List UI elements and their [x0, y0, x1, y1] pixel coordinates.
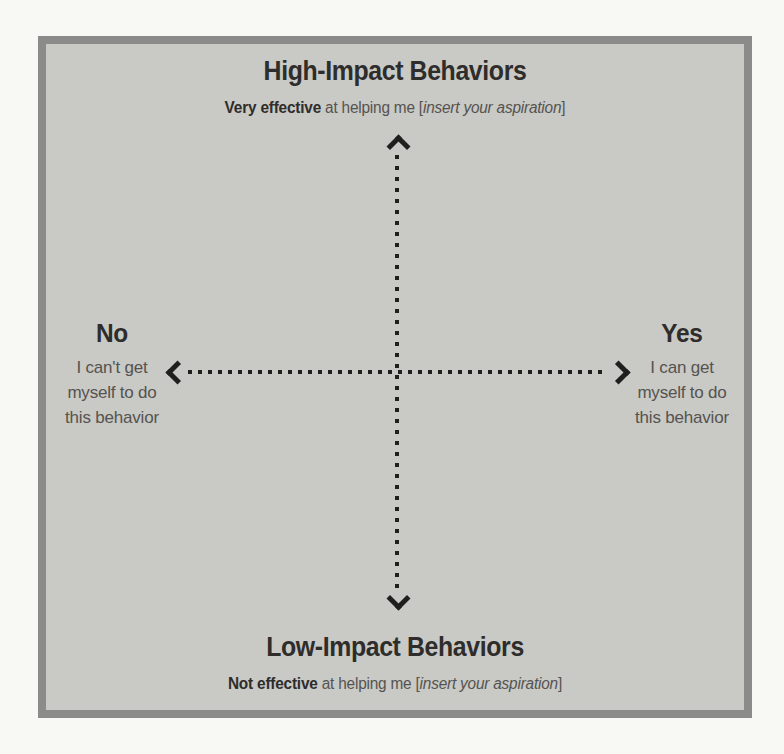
yes-label: Yes I can get myself to do this behavior — [616, 318, 748, 430]
high-impact-title: High-Impact Behaviors — [74, 56, 716, 86]
high-impact-subtitle: Very effective at helping me [insert you… — [60, 98, 730, 118]
high-impact-subtitle-plain: at helping me [ — [321, 99, 423, 116]
yes-label-line-2: myself to do — [616, 380, 748, 405]
no-label-line-2: myself to do — [46, 380, 178, 405]
no-label-line-3: this behavior — [46, 405, 178, 430]
page: High-Impact Behaviors Very effective at … — [0, 0, 784, 754]
high-impact-subtitle-aspiration: insert your aspiration — [423, 99, 561, 116]
no-label: No I can't get myself to do this behavio… — [46, 318, 178, 430]
arrow-down-icon — [386, 586, 410, 610]
low-impact-subtitle-bracket-close: ] — [558, 675, 562, 692]
yes-label-title: Yes — [620, 318, 744, 348]
low-impact-subtitle-bold: Not effective — [228, 675, 318, 692]
arrow-up-icon — [386, 134, 410, 158]
low-impact-subtitle-plain: at helping me [ — [318, 675, 420, 692]
horizontal-axis — [188, 370, 608, 374]
quadrant-diagram-panel: High-Impact Behaviors Very effective at … — [38, 36, 752, 718]
low-impact-title: Low-Impact Behaviors — [74, 632, 716, 662]
high-impact-subtitle-bold: Very effective — [225, 99, 321, 116]
yes-label-line-1: I can get — [616, 355, 748, 380]
yes-label-line-3: this behavior — [616, 405, 748, 430]
no-label-title: No — [50, 318, 174, 348]
low-impact-subtitle-aspiration: insert your aspiration — [420, 675, 558, 692]
no-label-line-1: I can't get — [46, 355, 178, 380]
low-impact-subtitle: Not effective at helping me [insert your… — [60, 674, 730, 694]
high-impact-subtitle-bracket-close: ] — [561, 99, 565, 116]
